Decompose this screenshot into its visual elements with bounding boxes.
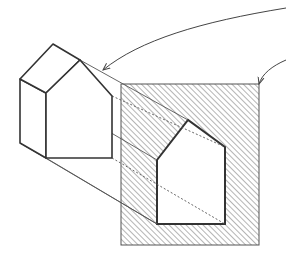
arrow-to-house [103,8,286,70]
arrow-to-plane [259,60,286,84]
curved-arrows [103,8,286,84]
house-3d [20,44,112,158]
diagram-canvas [0,0,286,256]
